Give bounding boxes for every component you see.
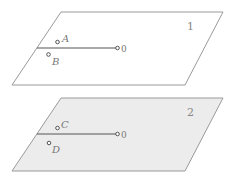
panel-number-1: 1 [187, 20, 194, 33]
point-a [56, 40, 60, 44]
point-d [47, 141, 51, 145]
endpoint-label-1: 0 [121, 44, 127, 54]
endpoint-o-2 [116, 132, 120, 136]
panel-number-2: 2 [187, 106, 194, 119]
diagram: 0 A B 1 0 C D 2 [0, 0, 234, 186]
point-d-label: D [51, 144, 60, 155]
point-c [56, 126, 60, 130]
point-b [47, 53, 51, 57]
point-a-label: A [61, 33, 69, 44]
point-b-label: B [51, 56, 59, 67]
half-plane-panel-2: 0 C D 2 [12, 98, 223, 171]
endpoint-o-1 [116, 46, 120, 50]
endpoint-label-2: 0 [121, 130, 127, 140]
half-plane-panel-1: 0 A B 1 [12, 12, 223, 85]
point-c-label: C [61, 119, 69, 130]
